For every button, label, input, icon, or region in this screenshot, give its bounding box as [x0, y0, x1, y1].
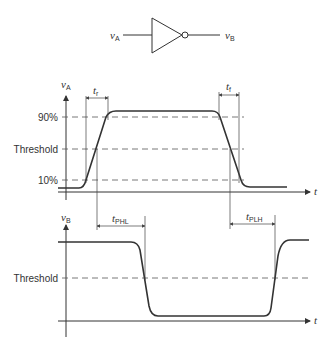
input-pulse-waveform: [58, 111, 287, 188]
level-10-label: 10%: [38, 175, 58, 186]
level-90-label: 90%: [38, 112, 58, 123]
gate-output-label: vB: [225, 29, 235, 42]
fall-time-label: tf: [226, 80, 231, 93]
timing-diagram: vA vB vA t 90% Threshold 10% tr tf vB t: [0, 0, 335, 351]
input-waveform-plot: vA t 90% Threshold 10% tr tf: [14, 78, 318, 230]
threshold-label-bottom: Threshold: [14, 273, 58, 284]
tphl-label: tPHL: [112, 212, 129, 225]
inverter-gate: vA vB: [110, 18, 235, 53]
x-axis-label-bottom: t: [314, 314, 318, 326]
gate-input-label: vA: [110, 29, 120, 42]
y-axis-label-vb: vB: [61, 211, 71, 224]
tplh-label: tPLH: [246, 210, 263, 223]
threshold-label-top: Threshold: [14, 144, 58, 155]
rise-time-label: tr: [93, 84, 99, 97]
output-waveform-plot: vB t Threshold tPHL tPLH: [14, 210, 318, 337]
gate-triangle: [152, 18, 182, 53]
y-axis-label-va: vA: [61, 78, 71, 91]
x-axis-label-top: t: [314, 185, 318, 197]
